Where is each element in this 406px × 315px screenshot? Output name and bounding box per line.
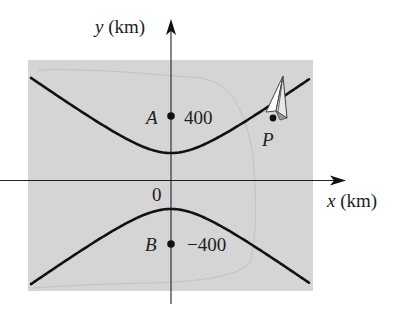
origin-label: 0	[152, 184, 162, 205]
focus-a-label: A	[144, 107, 158, 128]
point-p-dot	[270, 115, 277, 122]
y-axis-unit: (km)	[103, 16, 145, 38]
point-p-label: P	[261, 129, 274, 150]
hyperbola-navigation-figure: A 400 B −400 0 y (km) x (km) P	[0, 0, 406, 315]
focus-b-value: −400	[187, 234, 226, 255]
x-axis-unit: (km)	[335, 190, 377, 212]
focus-a-value: 400	[184, 107, 213, 128]
focus-b-label: B	[145, 234, 157, 255]
focus-a-dot	[167, 112, 175, 120]
focus-b-dot	[167, 240, 175, 248]
y-axis-label: y (km)	[93, 16, 145, 38]
y-axis-var: y	[93, 16, 104, 37]
x-axis-label: x (km)	[326, 190, 377, 212]
